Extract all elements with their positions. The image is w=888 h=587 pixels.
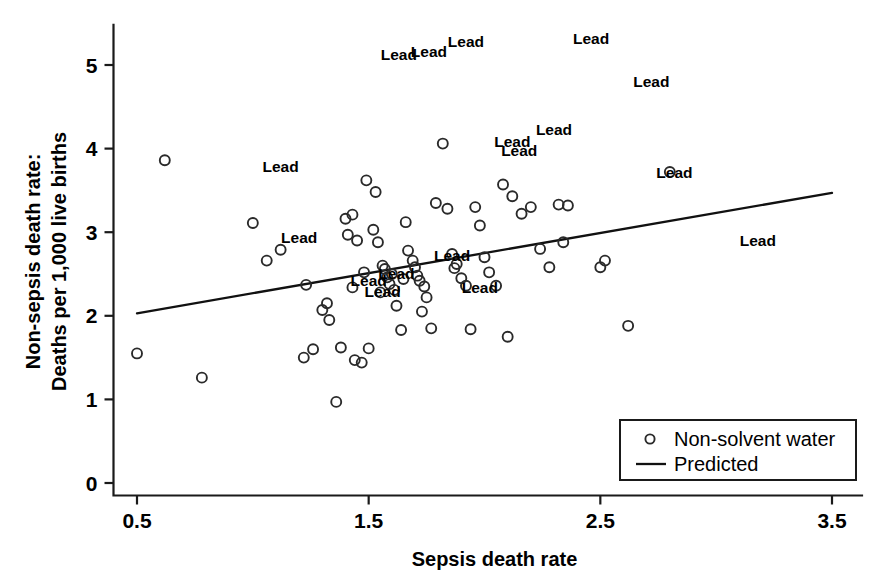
- scatter-point: [417, 307, 427, 317]
- lead-label: Lead: [573, 30, 609, 47]
- legend-label-non-solvent-water: Non-solvent water: [674, 428, 836, 450]
- lead-label: Lead: [434, 247, 470, 264]
- lead-label: Lead: [656, 164, 692, 181]
- scatter-point: [308, 344, 318, 354]
- lead-label: Lead: [364, 283, 400, 300]
- y-axis-title-line2: Deaths per 1,000 live births: [48, 132, 70, 391]
- scatter-point: [364, 343, 374, 353]
- scatter-point: [498, 180, 508, 190]
- x-tick-label: 1.5: [354, 509, 384, 532]
- scatter-point: [475, 221, 485, 231]
- scatter-point: [442, 204, 452, 214]
- scatter-point: [544, 262, 554, 272]
- chart-legend: Non-solvent waterPredicted: [620, 420, 856, 480]
- y-tick-label: 5: [86, 54, 98, 77]
- scatter-point: [526, 202, 536, 212]
- scatter-point: [368, 225, 378, 235]
- scatter-point: [262, 256, 272, 266]
- lead-label: Lead: [462, 279, 498, 296]
- lead-label: Lead: [263, 158, 299, 175]
- lead-annotations: LeadLeadLeadLeadLeadLeadLeadLeadLeadLead…: [263, 30, 776, 300]
- scatter-point: [248, 218, 258, 228]
- scatter-point: [299, 353, 309, 363]
- scatter-point: [623, 321, 633, 331]
- scatter-point: [336, 343, 346, 353]
- lead-label: Lead: [448, 33, 484, 50]
- lead-label: Lead: [411, 43, 447, 60]
- lead-label: Lead: [633, 73, 669, 90]
- y-tick-label: 4: [86, 137, 98, 160]
- scatter-point: [132, 348, 142, 358]
- scatter-point: [396, 325, 406, 335]
- scatter-point: [276, 245, 286, 255]
- x-axis-title: Sepsis death rate: [412, 548, 578, 570]
- y-tick-label: 1: [86, 388, 98, 411]
- lead-label: Lead: [536, 121, 572, 138]
- scatter-point: [503, 332, 513, 342]
- scatter-point: [160, 155, 170, 165]
- axis-titles: Sepsis death rateNon-sepsis death rate:D…: [22, 132, 577, 570]
- scatter-point: [466, 324, 476, 334]
- scatter-point: [352, 236, 362, 246]
- x-tick-label: 2.5: [586, 509, 616, 532]
- x-tick-label: 0.5: [122, 509, 152, 532]
- scatter-plot-figure: LeadLeadLeadLeadLeadLeadLeadLeadLeadLead…: [0, 0, 888, 587]
- lead-label: Lead: [740, 232, 776, 249]
- scatter-point: [422, 292, 432, 302]
- scatter-point: [438, 139, 448, 149]
- scatter-point: [517, 209, 527, 219]
- scatter-point: [535, 244, 545, 254]
- y-tick-label: 0: [86, 472, 98, 495]
- scatter-point: [343, 230, 353, 240]
- legend-label-predicted: Predicted: [674, 453, 759, 475]
- scatter-point: [371, 187, 381, 197]
- lead-label: Lead: [281, 229, 317, 246]
- y-tick-label: 3: [86, 221, 98, 244]
- scatter-point: [331, 397, 341, 407]
- y-axis-title-line1: Non-sepsis death rate:: [22, 154, 44, 370]
- y-tick-label: 2: [86, 304, 98, 327]
- plot-canvas: LeadLeadLeadLeadLeadLeadLeadLeadLeadLead…: [0, 0, 888, 587]
- scatter-point: [324, 315, 334, 325]
- lead-label: Lead: [501, 142, 537, 159]
- scatter-point: [361, 175, 371, 185]
- scatter-point: [401, 217, 411, 227]
- scatter-point: [470, 202, 480, 212]
- scatter-point: [484, 267, 494, 277]
- scatter-point: [391, 301, 401, 311]
- scatter-point: [197, 373, 207, 383]
- scatter-point: [373, 237, 383, 247]
- scatter-point: [431, 198, 441, 208]
- scatter-point: [507, 191, 517, 201]
- scatter-point: [426, 323, 436, 333]
- x-tick-label: 3.5: [817, 509, 847, 532]
- scatter-point: [403, 246, 413, 256]
